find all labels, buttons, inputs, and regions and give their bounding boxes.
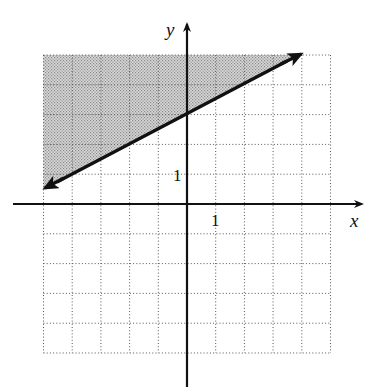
coordinate-graph: y x 1 1 — [0, 0, 368, 387]
y-axis-label: y — [164, 19, 175, 40]
x-axis-label: x — [349, 210, 359, 231]
y-tick-label-1: 1 — [173, 166, 182, 185]
x-tick-label-1: 1 — [211, 211, 220, 230]
